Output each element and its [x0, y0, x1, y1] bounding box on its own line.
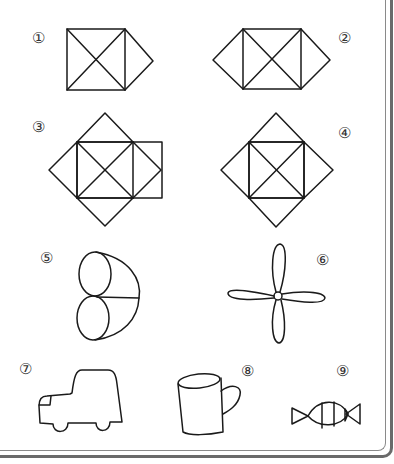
worksheet-panel: ① ② ③ ④ ⑤ ⑥ ⑦ ⑧ ⑨ [0, 0, 394, 464]
figure-7-car-icon [39, 370, 122, 431]
figure-5-ellipses-half-disc-icon [77, 252, 139, 340]
figure-2-square-two-triangles-icon [213, 29, 330, 89]
figure-6-propeller-icon [228, 244, 325, 343]
figure-8-mug-icon [177, 372, 240, 435]
figure-3-square-four-triangles-rectangle-icon [49, 113, 162, 226]
figures-canvas [0, 0, 394, 464]
figure-4-square-four-triangles-icon [221, 113, 333, 227]
figure-9-candy-icon [292, 402, 360, 428]
figure-1-square-triangle-icon [67, 29, 153, 90]
